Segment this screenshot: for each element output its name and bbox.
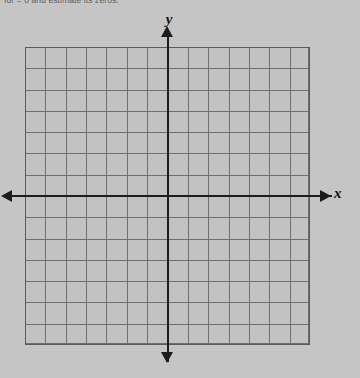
y-axis-line [167, 32, 169, 362]
x-axis-right-arrow-icon [320, 190, 331, 202]
x-axis-line [8, 195, 332, 197]
y-axis-up-arrow-icon [161, 26, 173, 37]
y-axis-down-arrow-icon [161, 352, 173, 363]
x-axis-label: x [334, 186, 350, 201]
worksheet-page: for = 0 and estimate its zeros. y x [0, 0, 360, 378]
x-axis-left-arrow-icon [1, 190, 12, 202]
coordinate-plane: y x [0, 0, 360, 378]
y-axis-label: y [161, 12, 177, 27]
